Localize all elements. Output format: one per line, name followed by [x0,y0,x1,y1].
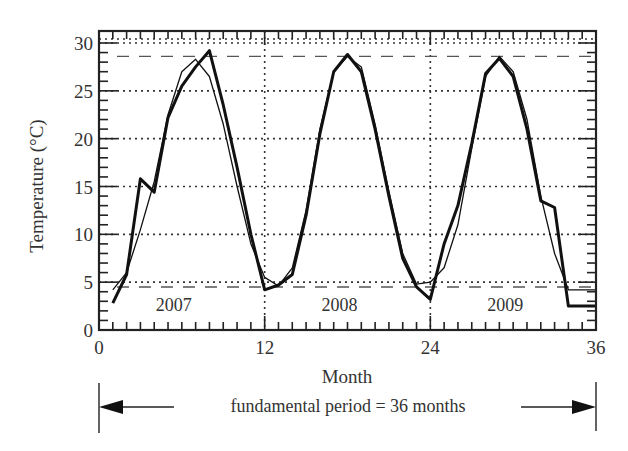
grid-layer [99,31,596,330]
axes-layer [99,31,596,330]
y-tick-label-10: 10 [74,224,93,245]
period-right-arrowhead [572,400,596,414]
y-tick-label-5: 5 [84,272,94,293]
y-tick-label-30: 30 [74,33,93,54]
x-tick-label-0: 0 [94,337,104,358]
y-tick-label-15: 15 [74,177,93,198]
x-tick-label-24: 24 [421,337,441,358]
y-tick-label-20: 20 [74,129,93,150]
temperature-chart: Month Temperature (°C) fundamental perio… [0,0,628,451]
reference-lines [117,56,596,287]
year-label-2008: 2008 [322,295,358,315]
y-tick-label-0: 0 [84,320,94,341]
y-axis-title: Temperature (°C) [26,119,48,252]
plot-frame [99,31,596,330]
series-layer [113,51,596,306]
y-tick-label-25: 25 [74,81,93,102]
x-axis-title: Month [322,366,373,387]
year-label-2007: 2007 [156,295,192,315]
series-fitted-line [113,56,596,289]
period-left-arrowhead [99,400,123,414]
x-tick-label-12: 12 [255,337,274,358]
year-label-2009: 2009 [487,295,523,315]
period-annotation-label: fundamental period = 36 months [230,396,465,416]
series-measured-line [113,51,596,306]
x-tick-label-36: 36 [587,337,606,358]
